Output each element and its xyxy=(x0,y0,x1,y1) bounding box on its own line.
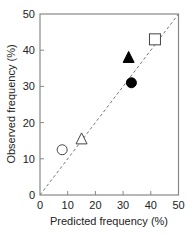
filled-circle-marker xyxy=(126,78,136,88)
x-tick-label: 50 xyxy=(172,199,184,211)
x-tick-label: 0 xyxy=(37,199,43,211)
x-tick-label: 20 xyxy=(89,199,101,211)
open-circle-marker xyxy=(57,145,67,155)
y-axis-label: Observed frequency (%) xyxy=(5,44,17,163)
y-tick-label: 50 xyxy=(23,8,35,20)
x-tick-labels: 01020304050 xyxy=(37,199,185,211)
y-tick-label: 30 xyxy=(23,80,35,92)
x-tick-label: 40 xyxy=(145,199,157,211)
data-points xyxy=(57,34,160,155)
open-square-marker xyxy=(149,34,160,45)
y-tick-label: 40 xyxy=(23,44,35,56)
open-triangle-marker xyxy=(76,133,87,144)
filled-triangle-marker xyxy=(123,51,134,62)
y-tick-labels: 01020304050 xyxy=(23,8,35,201)
x-tick-label: 10 xyxy=(62,199,74,211)
x-tick-label: 30 xyxy=(117,199,129,211)
y-tick-label: 10 xyxy=(23,153,35,165)
y-tick-label: 20 xyxy=(23,117,35,129)
scatter-chart: 01020304050 01020304050 Predicted freque… xyxy=(0,0,192,236)
x-axis-label: Predicted frequency (%) xyxy=(50,215,168,227)
y-tick-label: 0 xyxy=(29,189,35,201)
